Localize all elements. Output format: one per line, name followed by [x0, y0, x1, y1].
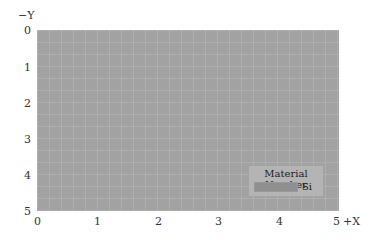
x-tick-4: 4 [276, 216, 283, 227]
x-tick-3: 3 [215, 216, 222, 227]
y-tick-2: 2 [24, 98, 31, 109]
y-tick-1: 1 [24, 62, 31, 73]
legend-swatch-si [254, 182, 298, 192]
x-tick-2: 2 [155, 216, 162, 227]
legend: Material Number Si [249, 166, 323, 196]
material-region-plot: Material Number Si [37, 30, 339, 211]
x-tick-5: 5 [333, 216, 340, 227]
y-tick-0: 0 [24, 25, 31, 36]
y-tick-4: 4 [24, 170, 31, 181]
y-tick-5: 5 [24, 206, 31, 217]
x-axis-label: +X [343, 216, 360, 227]
legend-label-si: Si [302, 181, 312, 192]
x-tick-0: 0 [34, 216, 41, 227]
y-tick-3: 3 [24, 134, 31, 145]
x-tick-1: 1 [94, 216, 101, 227]
y-axis-label: −Y [18, 10, 34, 21]
